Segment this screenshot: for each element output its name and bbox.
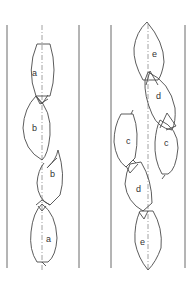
left-label-3: b [50,169,55,179]
left-label-1: a [32,68,37,78]
right-label-3: c [126,136,131,146]
right-leaf-e-top [134,22,164,85]
left-label-2: b [32,123,37,133]
left-label-4: a [46,234,51,244]
right-label-1: e [152,49,157,59]
right-label-6: e [140,237,145,247]
diagram-canvas: a b b a e d c c d e [0,0,196,286]
left-leaf-a-bottom [31,204,57,266]
right-label-2: d [156,91,161,101]
leaf-arrangement-diagram: a b b a e d c c d e [0,0,196,286]
right-label-4: c [164,138,169,148]
right-leaf-d-upper [145,72,176,130]
right-label-5: d [136,184,141,194]
